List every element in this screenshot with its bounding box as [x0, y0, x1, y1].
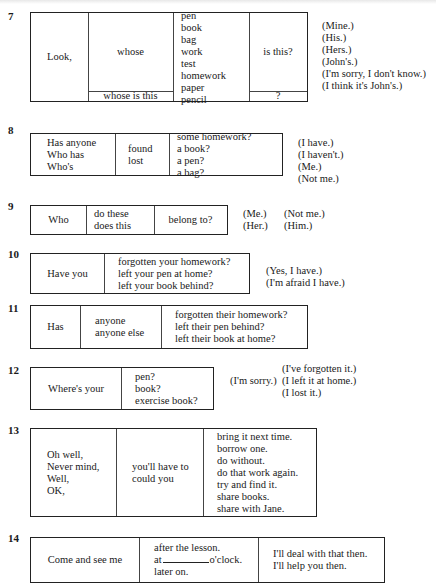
text-line: (I haven't.) — [298, 149, 344, 161]
ex13-col1: Oh well,Never mind,Well,OK, — [31, 429, 116, 516]
ex7-col1: Look, — [31, 13, 88, 101]
substitution-table-12: Where's your pen?book?exercise book? — [30, 367, 214, 410]
fill-in-blank — [163, 554, 209, 563]
text-line: (I'm sorry, I don't know.) — [322, 68, 426, 80]
ex11-col2: anyoneanyone else — [80, 306, 161, 348]
text-line: (Hers.) — [322, 44, 426, 56]
ex7-col2-bottom: whose is this — [88, 91, 173, 101]
ex13-col2: you'll have tocould you — [116, 429, 203, 516]
text-line: (I've forgotten it.) — [282, 363, 356, 375]
ex14-col3: I'll deal with that then.I'll help you t… — [258, 538, 384, 582]
text-line: (Not me.) — [284, 208, 325, 220]
ex10-col1: Have you — [31, 254, 104, 293]
text-line: share with Jane. — [217, 503, 284, 515]
exercise-number-11: 11 — [8, 302, 18, 314]
text-line: share books. — [217, 491, 270, 503]
text-line: anyone — [95, 315, 125, 327]
ex11-col1: Has — [31, 306, 80, 348]
cropped-top-edge — [0, 0, 436, 4]
ex14-col2-line3: later on. — [154, 566, 188, 578]
text-line: I'll deal with that then. — [273, 548, 367, 560]
text-line: bring it next time. — [217, 431, 292, 443]
text-line: (Her.) — [243, 220, 268, 232]
ex7-col3: penbookbagworktesthomeworkpaperpencil — [173, 13, 249, 101]
substitution-table-11: Has anyoneanyone else forgotten their ho… — [30, 305, 308, 349]
ex12-responses: (I've forgotten it.)(I left it at home.)… — [282, 363, 356, 399]
text-line: found — [128, 143, 153, 155]
exercise-number-12: 12 — [8, 364, 19, 376]
substitution-table-13: Oh well,Never mind,Well,OK, you'll have … — [30, 428, 317, 517]
ex9-col1: Who — [31, 206, 86, 234]
text-line: book? — [135, 383, 161, 395]
text-line: anyone else — [95, 327, 144, 339]
text-line: some homework? — [177, 131, 251, 143]
text-line: (John's.) — [322, 56, 426, 68]
ex14-col2-line1: after the lesson. — [154, 542, 220, 554]
text-line: borrow one. — [217, 443, 268, 455]
text-line: Where's your — [48, 383, 104, 395]
ex10-responses: (Yes, I have.)(I'm afraid I have.) — [266, 265, 345, 289]
ex14-oclock-text: o'clock. — [210, 554, 243, 565]
ex14-col2: after the lesson. ato'clock. later on. — [139, 538, 258, 582]
text-line: (I think it's John's.) — [322, 80, 426, 92]
substitution-table-7: Look, whose whose is this penbookbagwork… — [30, 12, 308, 102]
text-line: (His.) — [322, 32, 426, 44]
exercise-number-7: 7 — [8, 10, 14, 22]
text-line: OK, — [47, 485, 65, 497]
text-line: Oh well, — [47, 449, 83, 461]
exercise-number-10: 10 — [8, 248, 19, 260]
text-line: (I lost it.) — [282, 387, 356, 399]
ex13-col3: bring it next time.borrow one.do without… — [203, 429, 316, 516]
text-line: Who has — [47, 149, 84, 161]
ex8-col3: some homework?a book?a pen?a bag? — [169, 134, 282, 175]
text-line: is this? — [263, 46, 292, 58]
ex14-col1: Come and see me — [31, 538, 139, 582]
text-line: (Mine.) — [322, 20, 426, 32]
text-line: Has — [47, 321, 63, 333]
ex12-col2: pen?book?exercise book? — [121, 368, 213, 409]
text-line: a book? — [177, 143, 210, 155]
text-line: left your book behind? — [118, 280, 213, 292]
text-line: do these — [94, 208, 129, 220]
substitution-table-8: Has anyoneWho hasWho's foundlost some ho… — [30, 133, 283, 176]
text-line: homework — [181, 70, 226, 82]
text-line: Who's — [47, 161, 73, 173]
ex7-col2-top: whose — [88, 13, 173, 91]
text-line: lost — [128, 155, 143, 167]
text-line: do that work again. — [217, 467, 298, 479]
text-line: paper — [181, 82, 204, 94]
text-line: (Yes, I have.) — [266, 265, 345, 277]
ex8-col1: Has anyoneWho hasWho's — [31, 134, 115, 175]
ex9-responses-b: (Not me.)(Him.) — [284, 208, 325, 232]
text-line: (Me.) — [243, 208, 268, 220]
text-line: could you — [132, 473, 174, 485]
ex9-col3: belong to? — [154, 206, 227, 234]
text-line: pencil — [181, 94, 207, 106]
substitution-table-9: Who do thesedoes this belong to? — [30, 205, 228, 235]
text-line: Come and see me — [48, 554, 122, 566]
text-line: book — [181, 22, 202, 34]
text-line: I'll help you then. — [273, 560, 347, 572]
text-line: (Not me.) — [298, 173, 344, 185]
ex12-response-prefix: (I'm sorry.) — [230, 375, 277, 387]
ex14-col2-line2: ato'clock. — [154, 554, 242, 566]
text-line: Never mind, — [47, 461, 100, 473]
text-line: (Him.) — [284, 220, 325, 232]
text-line: whose — [117, 46, 144, 58]
text-line: (Me.) — [298, 161, 344, 173]
ex12-col1: Where's your — [31, 368, 121, 409]
ex9-responses-a: (Me.)(Her.) — [243, 208, 268, 232]
text-line: forgotten your homework? — [118, 256, 230, 268]
text-line: pen? — [135, 371, 155, 383]
exercise-number-8: 8 — [8, 124, 14, 136]
text-line: a bag? — [177, 167, 204, 179]
text-line: does this — [94, 220, 131, 232]
ex8-responses: (I have.)(I haven't.)(Me.)(Not me.) — [298, 137, 344, 185]
text-line: do without. — [217, 455, 265, 467]
text-line: ? — [276, 90, 281, 102]
text-line: exercise book? — [135, 395, 198, 407]
text-line: Has anyone — [47, 137, 96, 149]
text-line: (I'm afraid I have.) — [266, 277, 345, 289]
text-line: bag — [181, 34, 196, 46]
text-line: (I left it at home.) — [282, 375, 356, 387]
